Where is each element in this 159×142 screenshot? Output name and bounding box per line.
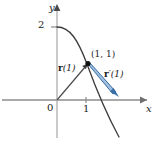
tangent-vector-label-rest: ′(1)	[109, 69, 124, 79]
y-axis-label: y	[49, 3, 55, 13]
point-label: (1, 1)	[91, 50, 115, 59]
x-axis-label: x	[146, 104, 152, 114]
origin-label: 0	[47, 103, 53, 113]
y-tick-label-2: 2	[38, 20, 44, 30]
vector-function-tangent-diagram: y x 2 1 0 (1, 1) r(1) r′(1)	[0, 0, 159, 142]
x-tick-label-1: 1	[83, 104, 89, 114]
point-marker	[85, 61, 90, 66]
diagram-canvas	[0, 0, 159, 142]
position-vector-label: r(1)	[58, 64, 76, 73]
tangent-vector-label: r′(1)	[104, 70, 124, 79]
position-vector-label-rest: (1)	[63, 63, 76, 73]
curve-path	[57, 27, 119, 137]
